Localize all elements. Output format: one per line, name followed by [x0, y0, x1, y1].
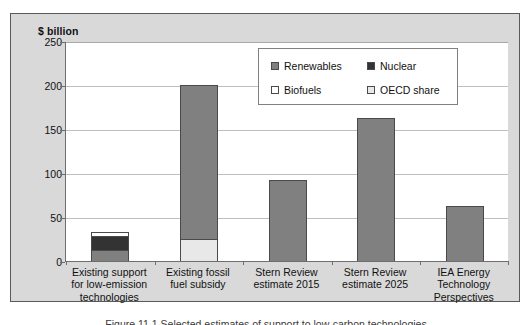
x-label-line: fuel subsidy: [154, 278, 243, 290]
x-tick-mark: [66, 261, 67, 265]
y-tick-label-50: 50: [28, 212, 62, 224]
bar-group: [91, 42, 129, 261]
x-label-line: estimate 2025: [331, 278, 420, 290]
legend-item-oecd-share: OECD share: [367, 84, 440, 96]
x-tick-mark: [508, 261, 509, 265]
x-tick-mark: [420, 261, 421, 265]
y-tick-label-200: 200: [28, 80, 62, 92]
bar-segment-renewables: [91, 250, 129, 261]
bar-segment-renewables: [357, 118, 395, 261]
legend-item-biofuels: Biofuels: [271, 84, 321, 96]
x-label-line: Existing fossil: [154, 266, 243, 278]
legend-label: Biofuels: [284, 84, 321, 96]
x-axis-category-labels: Existing supportfor low-emissiontechnolo…: [65, 266, 508, 314]
y-tick-label-250: 250: [28, 36, 62, 48]
x-axis-label-0: Existing supportfor low-emissiontechnolo…: [65, 266, 154, 303]
bar-segment-renewables: [446, 206, 484, 261]
legend-swatch-icon: [271, 86, 279, 94]
legend-swatch-icon: [367, 86, 375, 94]
y-tick-label-100: 100: [28, 168, 62, 180]
x-axis-label-4: IEA EnergyTechnologyPerspectives: [419, 266, 508, 303]
y-tick-label-0: 0: [28, 256, 62, 268]
bar-group: [180, 42, 218, 261]
legend: RenewablesNuclearBiofuelsOECD share: [258, 48, 458, 105]
figure: $ billion 050100150200250 Existing suppo…: [0, 0, 532, 325]
x-axis-label-3: Stern Reviewestimate 2025: [331, 266, 420, 291]
legend-item-nuclear: Nuclear: [367, 60, 416, 72]
legend-label: Renewables: [284, 60, 342, 72]
legend-swatch-icon: [367, 62, 375, 70]
x-label-line: estimate 2015: [242, 278, 331, 290]
x-label-line: for low-emission: [65, 278, 154, 290]
bar-segment-renewables: [180, 85, 218, 239]
x-label-line: Stern Review: [331, 266, 420, 278]
x-tick-mark: [243, 261, 244, 265]
bar-segment-nuclear: [91, 236, 129, 250]
bar-segment-oecd-share: [180, 239, 218, 261]
x-label-line: Stern Review: [242, 266, 331, 278]
x-label-line: Perspectives: [419, 291, 508, 303]
bar-segment-biofuels: [91, 232, 129, 236]
x-label-line: technologies: [65, 291, 154, 303]
legend-label: Nuclear: [380, 60, 416, 72]
x-axis-label-1: Existing fossilfuel subsidy: [154, 266, 243, 291]
y-tick-mark-0: [60, 262, 65, 263]
x-label-line: Existing support: [65, 266, 154, 278]
x-label-line: IEA Energy: [419, 266, 508, 278]
legend-label: OECD share: [380, 84, 440, 96]
x-tick-mark: [155, 261, 156, 265]
legend-swatch-icon: [271, 62, 279, 70]
y-tick-label-150: 150: [28, 124, 62, 136]
x-axis-label-2: Stern Reviewestimate 2015: [242, 266, 331, 291]
legend-item-renewables: Renewables: [271, 60, 342, 72]
bar-segment-renewables: [269, 180, 307, 261]
x-tick-mark: [332, 261, 333, 265]
x-label-line: Technology: [419, 278, 508, 290]
figure-caption: Figure 11.1 Selected estimates of suppor…: [0, 318, 532, 325]
